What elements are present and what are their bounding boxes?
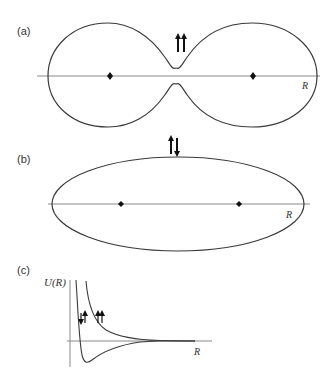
- panel-a: (a) R: [17, 23, 320, 127]
- panel-a-nucleus-right: [250, 72, 256, 80]
- panel-b: (b) R: [17, 138, 310, 251]
- panel-c-x-label: R: [193, 346, 200, 357]
- panel-b-nucleus-left: [118, 201, 124, 207]
- panel-c-spin-antiparallel-icon: [81, 313, 85, 323]
- panel-a-label: (a): [17, 25, 30, 37]
- panel-c-spin-parallel-icon: [98, 313, 102, 323]
- panel-b-spin-antiparallel-icon: [171, 138, 177, 154]
- panel-a-r-label: R: [301, 80, 308, 91]
- panel-c: (c) U(R) R: [17, 264, 212, 367]
- panel-c-repulsive-curve: [86, 281, 195, 341]
- figure-canvas: (a) R (b) R (c): [0, 0, 334, 386]
- panel-b-nucleus-right: [236, 201, 242, 207]
- panel-b-r-label: R: [285, 209, 292, 220]
- panel-b-label: (b): [17, 153, 30, 165]
- panel-a-spin-parallel-icon: [178, 36, 184, 52]
- panel-a-right-lobe: [176, 23, 317, 127]
- panel-c-bonding-curve: [76, 280, 195, 362]
- panel-a-nucleus-left: [107, 72, 113, 80]
- panel-c-y-label: U(R): [44, 276, 66, 289]
- panel-c-label: (c): [17, 264, 30, 276]
